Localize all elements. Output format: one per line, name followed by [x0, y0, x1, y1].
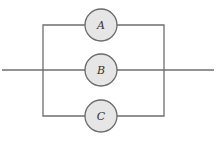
component-a-label: A: [96, 19, 105, 32]
component-b-label: B: [96, 64, 105, 77]
parallel-diagram: A B C: [0, 0, 221, 142]
component-a: A: [85, 9, 117, 41]
component-c: C: [85, 100, 117, 132]
component-c-label: C: [97, 110, 106, 123]
component-b: B: [85, 54, 117, 86]
